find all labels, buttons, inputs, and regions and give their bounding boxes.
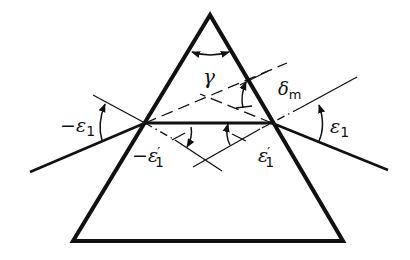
- right-normal-outside: [300, 77, 357, 108]
- right-refraction-label: ε′1: [258, 144, 274, 170]
- deviation-arc: [242, 82, 246, 108]
- deviation-tick-lower: [236, 106, 252, 108]
- apex-angle-arc: [192, 52, 229, 55]
- left-normal-inside-solid: [175, 140, 222, 171]
- right-incidence-arc: [319, 105, 323, 141]
- prism-diagram: γ δm −ε1 ε1 −ε′1 ε′1: [0, 0, 410, 260]
- deviation-label: δm: [278, 78, 302, 102]
- left-incidence-label: −ε1: [60, 114, 95, 139]
- left-normal-inside: [145, 123, 175, 140]
- left-refraction-label: −ε′1: [132, 144, 164, 170]
- apex-angle-label: γ: [203, 65, 215, 89]
- prism-outline: [73, 15, 343, 241]
- right-incidence-label: ε1: [330, 115, 349, 140]
- left-incidence-arc: [100, 104, 105, 140]
- left-inner-tick: [172, 133, 185, 140]
- right-refraction-arc: [227, 124, 230, 145]
- left-refraction-arc: [187, 127, 192, 147]
